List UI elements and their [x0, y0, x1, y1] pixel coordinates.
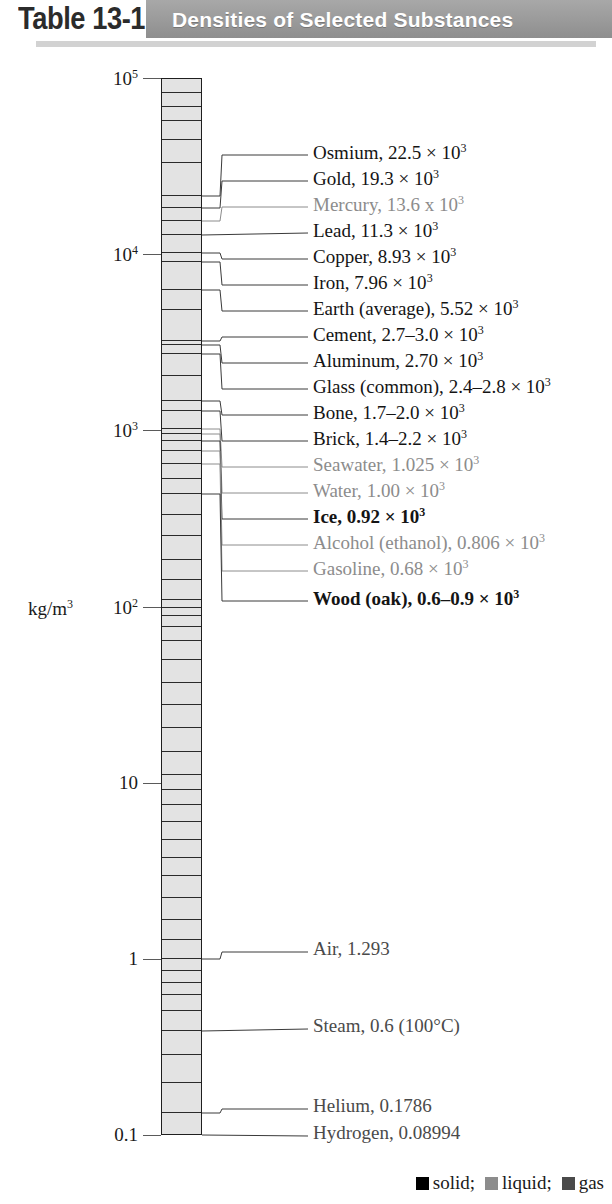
substance-name: Lead,	[313, 220, 360, 241]
leader-line	[202, 494, 308, 601]
scale-segment-line	[162, 599, 201, 600]
substance-density: 1.00 × 103	[367, 480, 445, 501]
substance-name: Wood (oak),	[313, 588, 417, 609]
substance-density: 1.4–2.2 × 103	[365, 428, 467, 449]
scale-segment-line	[162, 428, 201, 429]
substance-name: Copper,	[313, 246, 378, 267]
axis-tick-mark	[143, 1135, 161, 1136]
substance-label: Helium, 0.1786	[313, 1096, 432, 1115]
header-underline	[36, 41, 596, 47]
axis-tick-label: 10	[60, 773, 138, 792]
leader-line	[202, 434, 308, 493]
substance-name: Gasoline,	[313, 558, 390, 579]
leader-line	[202, 1109, 308, 1113]
substance-density: 8.93 × 103	[378, 246, 456, 267]
substance-name: Glass (common),	[313, 376, 449, 397]
axis-tick-mark	[143, 607, 161, 608]
scale-segment-line	[162, 1054, 201, 1055]
scale-segment-line	[162, 875, 201, 876]
scale-segment-line	[162, 400, 201, 401]
scale-segment-line	[162, 958, 201, 959]
scale-segment-line	[162, 478, 201, 479]
substance-density: 13.6 x 103	[387, 194, 464, 215]
scale-segment-line	[162, 514, 201, 515]
substance-label: Ice, 0.92 × 103	[313, 506, 425, 526]
leader-line	[202, 441, 308, 519]
substance-label: Glass (common), 2.4–2.8 × 103	[313, 376, 551, 396]
substance-name: Water,	[313, 480, 367, 501]
substance-label: Air, 1.293	[313, 939, 390, 958]
scale-segment-line	[162, 261, 201, 262]
leader-line	[202, 429, 308, 467]
substance-label: Wood (oak), 0.6–0.9 × 103	[313, 588, 519, 608]
scale-segment-line	[162, 220, 201, 221]
scale-segment-line	[162, 353, 201, 354]
substance-density: 0.806 × 103	[457, 532, 545, 553]
axis-tick-mark	[143, 959, 161, 960]
scale-segment-line	[162, 659, 201, 660]
substance-label: Iron, 7.96 × 103	[313, 272, 433, 292]
substance-density: 0.92 × 103	[347, 506, 426, 527]
scale-segment-line	[162, 994, 201, 995]
substance-label: Aluminum, 2.70 × 103	[313, 350, 483, 370]
substance-name: Mercury,	[313, 194, 387, 215]
leader-line	[202, 233, 308, 235]
substance-density: 0.08994	[398, 1122, 460, 1143]
scale-segment-line	[162, 1030, 201, 1031]
substance-label: Bone, 1.7–2.0 × 103	[313, 402, 465, 422]
substance-label: Water, 1.00 × 103	[313, 480, 445, 500]
scale-segment-line	[162, 252, 201, 253]
axis-tick-label: 1	[60, 949, 138, 968]
substance-name: Osmium,	[313, 142, 388, 163]
substance-name: Helium,	[313, 1095, 380, 1116]
scale-segment-line	[162, 535, 201, 536]
scale-segment-line	[162, 410, 201, 411]
substance-name: Earth (average),	[313, 298, 440, 319]
scale-segment-line	[162, 195, 201, 196]
leader-line	[202, 464, 308, 571]
scale-segment-line	[162, 857, 201, 858]
axis-tick-mark	[143, 78, 161, 79]
axis-tick-label: 104	[60, 244, 138, 264]
leader-line	[202, 345, 308, 363]
scale-segment-line	[162, 106, 201, 107]
substance-label: Gold, 19.3 × 103	[313, 168, 439, 188]
leader-line	[202, 155, 308, 196]
substance-density: 0.6–0.9 × 103	[417, 588, 519, 609]
substance-name: Ice,	[313, 506, 347, 527]
leader-line	[202, 181, 308, 208]
axis-tick-mark	[143, 430, 161, 431]
substance-density: 1.293	[347, 938, 390, 959]
scale-segment-line	[162, 440, 201, 441]
substance-name: Seawater,	[313, 454, 391, 475]
leader-line	[202, 290, 308, 311]
axis-tick-label: 105	[60, 68, 138, 88]
substance-density: 0.1786	[380, 1095, 432, 1116]
scale-segment-line	[162, 897, 201, 898]
axis-tick-mark	[143, 783, 161, 784]
table-number: Table 13-1	[18, 1, 131, 37]
substance-label: Seawater, 1.025 × 103	[313, 454, 479, 474]
scale-segment-line	[162, 640, 201, 641]
substance-label: Gasoline, 0.68 × 103	[313, 558, 469, 578]
substance-label: Cement, 2.7–3.0 × 103	[313, 324, 484, 344]
table-header: Table 13-1 Densities of Selected Substan…	[0, 0, 612, 38]
scale-segment-line	[162, 344, 201, 345]
leader-line	[202, 262, 308, 285]
scale-segment-line	[162, 1010, 201, 1011]
substance-density: 2.70 × 103	[405, 350, 483, 371]
scale-segment-line	[162, 375, 201, 376]
substance-name: Iron,	[313, 272, 354, 293]
scale-segment-line	[162, 704, 201, 705]
substance-density: 22.5 × 103	[388, 142, 466, 163]
table-title: Densities of Selected Substances	[172, 6, 513, 33]
axis-tick-label: 0.1	[60, 1125, 138, 1144]
scale-segment-line	[162, 1112, 201, 1113]
axis-unit-label: kg/m3	[28, 597, 73, 620]
scale-segment-line	[162, 463, 201, 464]
substance-label: Steam, 0.6 (100°C)	[313, 1016, 460, 1035]
leader-line	[202, 354, 308, 389]
scale-segment-line	[162, 607, 201, 608]
density-scale-bar	[161, 78, 202, 1135]
scale-segment-line	[162, 579, 201, 580]
